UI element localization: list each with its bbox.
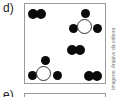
black-atom bbox=[41, 56, 50, 65]
molecule-box-e bbox=[24, 93, 106, 97]
panel-label-d: d) bbox=[3, 1, 14, 15]
white-atom bbox=[77, 19, 92, 34]
image-credit: Imagens: Arquivo da editora bbox=[110, 28, 116, 90]
black-atom bbox=[81, 9, 90, 18]
white-atom bbox=[36, 66, 51, 81]
panel-label-e: e) bbox=[3, 88, 14, 97]
black-atom bbox=[75, 45, 85, 55]
black-atom bbox=[92, 71, 102, 81]
black-atom bbox=[36, 9, 46, 19]
black-atom bbox=[53, 71, 62, 80]
molecule-box-d bbox=[24, 3, 106, 84]
black-atom bbox=[93, 24, 102, 33]
